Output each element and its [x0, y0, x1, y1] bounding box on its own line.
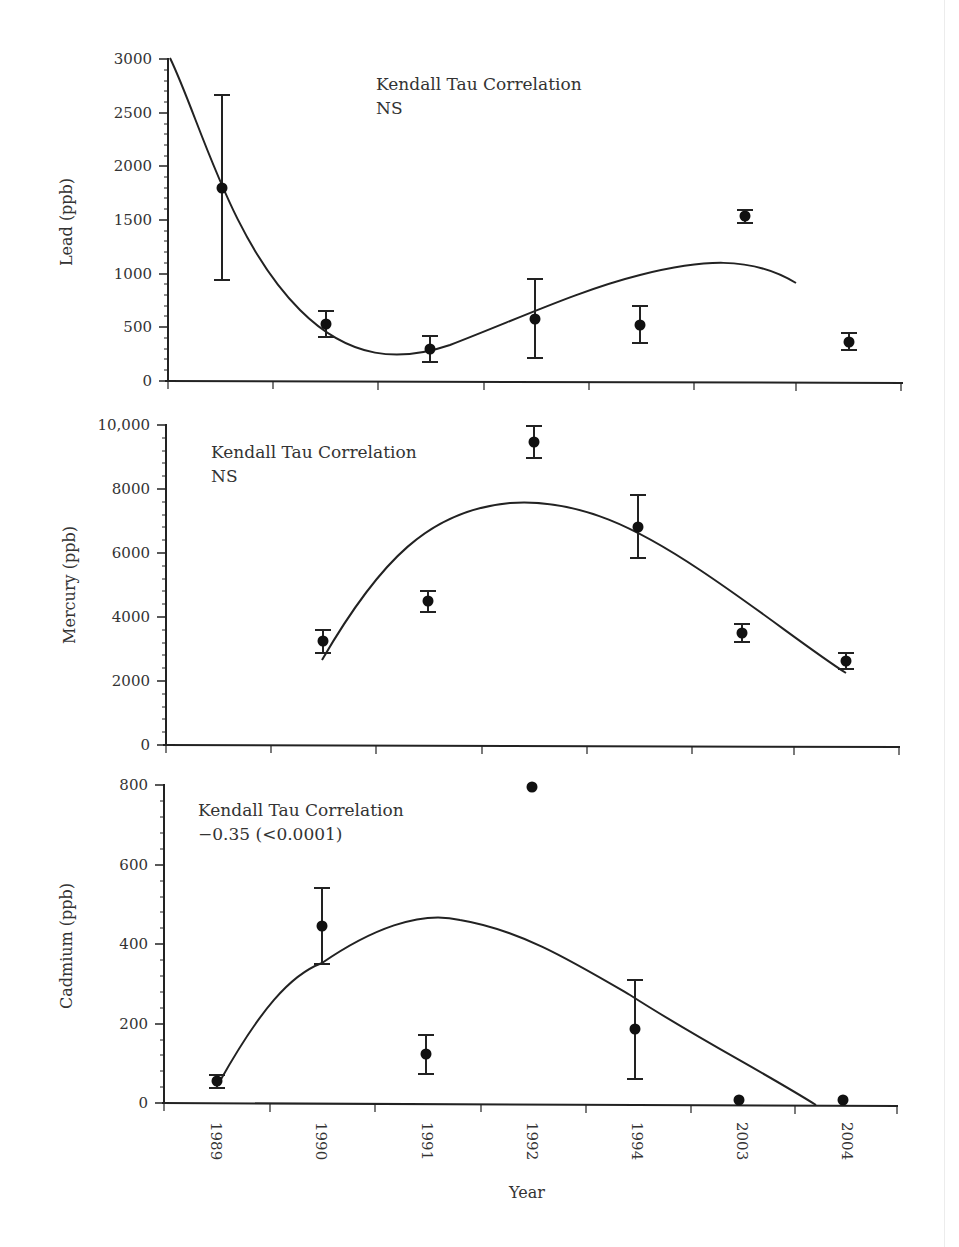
- chart-figure: 0 500 1000 1500 2000 2500 3000 0 2000 40…: [0, 0, 959, 1247]
- cadmium-trend-line: [220, 917, 816, 1105]
- lead-data-points: [214, 95, 857, 362]
- tick-label: 1500: [114, 211, 152, 229]
- cadmium-annotation-title: Kendall Tau Correlation: [198, 800, 404, 820]
- mercury-annotation-value: NS: [211, 466, 238, 486]
- tick-label: 3000: [114, 50, 152, 68]
- tick-label: 0: [138, 1094, 148, 1112]
- tick-label: 2500: [114, 104, 152, 122]
- tick-label: 0: [140, 736, 150, 754]
- mercury-data-points: [315, 426, 854, 669]
- tick-label: 500: [123, 318, 152, 336]
- x-tick-label: 2004: [838, 1122, 856, 1160]
- mercury-x-axis: [163, 745, 900, 747]
- lead-trend-line: [170, 58, 796, 355]
- x-tick-label: 1989: [207, 1122, 225, 1160]
- mercury-annotation-title: Kendall Tau Correlation: [211, 442, 417, 462]
- x-tick-label: 1991: [418, 1122, 436, 1160]
- tick-label: 2000: [112, 672, 150, 690]
- cadmium-x-axis: [162, 1103, 898, 1106]
- lead-x-axis: [165, 381, 903, 383]
- lead-y-axis-title: Lead (ppb): [57, 178, 76, 266]
- x-axis-title: Year: [508, 1183, 545, 1202]
- tick-label: 800: [119, 776, 148, 794]
- tick-label: 200: [119, 1015, 148, 1033]
- tick-label: 8000: [112, 480, 150, 498]
- tick-label: 4000: [112, 608, 150, 626]
- x-tick-label: 1994: [628, 1122, 646, 1160]
- mercury-trend-line: [322, 502, 846, 673]
- x-tick-label: 1990: [312, 1122, 330, 1160]
- x-tick-label: 2003: [733, 1122, 751, 1160]
- tick-label: 2000: [114, 157, 152, 175]
- mercury-y-tick-labels: 0 2000 4000 6000 8000 10,000: [98, 416, 151, 754]
- lead-annotation-title: Kendall Tau Correlation: [376, 74, 582, 94]
- lead-y-tick-labels: 0 500 1000 1500 2000 2500 3000: [114, 50, 152, 390]
- lead-annotation-value: NS: [376, 98, 403, 118]
- tick-label: 600: [119, 856, 148, 874]
- axes: [162, 58, 903, 1106]
- tick-label: 6000: [112, 544, 150, 562]
- tick-label: 1000: [114, 265, 152, 283]
- x-tick-labels: 1989 1990 1991 1992 1994 2003 2004: [207, 1122, 856, 1160]
- tick-label: 400: [119, 935, 148, 953]
- tick-label: 10,000: [98, 416, 151, 434]
- cadmium-y-tick-labels: 0 200 400 600 800: [119, 776, 148, 1112]
- cadmium-y-axis-title: Cadmium (ppb): [57, 883, 76, 1009]
- x-tick-label: 1992: [523, 1122, 541, 1160]
- mercury-y-axis-title: Mercury (ppb): [60, 526, 79, 644]
- tick-label: 0: [142, 372, 152, 390]
- cadmium-annotation-value: −0.35 (<0.0001): [198, 824, 343, 844]
